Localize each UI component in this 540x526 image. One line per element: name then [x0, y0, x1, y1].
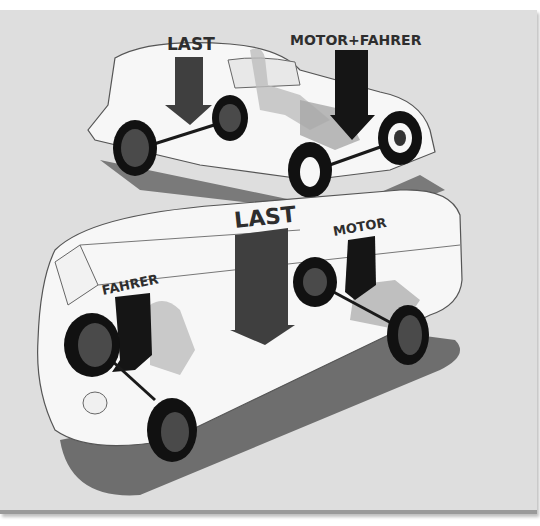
bottom-last-arrow [230, 228, 295, 345]
top-rear-left-wheel [113, 120, 157, 176]
bottom-front-left-wheel [64, 313, 120, 377]
bottom-vehicle: LAST MOTOR FAHRER [38, 190, 462, 496]
vehicle-weight-illustration: LAST MOTOR+FAHRER [0, 10, 537, 510]
top-last-label: LAST [167, 34, 215, 54]
top-front-left-wheel [288, 142, 332, 198]
bottom-rear-right-wheel [387, 305, 429, 365]
bottom-rear-left-wheel [293, 257, 337, 307]
top-vehicle: LAST MOTOR+FAHRER [88, 32, 445, 215]
top-motor-fahrer-label: MOTOR+FAHRER [290, 32, 422, 48]
bottom-vehicle-headlamp [83, 392, 107, 414]
illustration-panel: LAST MOTOR+FAHRER [0, 10, 537, 514]
top-front-right-wheel [378, 111, 422, 165]
top-rear-right-wheel [212, 95, 248, 141]
bottom-front-right-wheel [147, 398, 197, 462]
